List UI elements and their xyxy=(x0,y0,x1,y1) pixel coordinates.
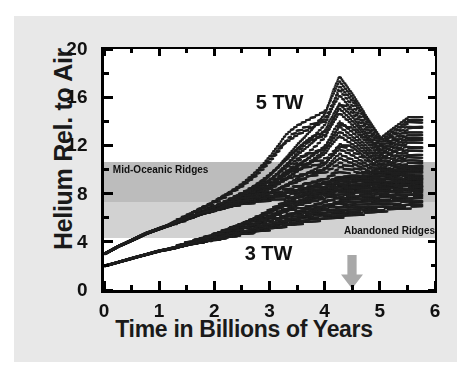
y-tick-minor xyxy=(102,216,109,219)
x-tick-minor xyxy=(240,285,243,292)
x-tick-label: 6 xyxy=(418,300,452,322)
y-tick-major-right xyxy=(428,192,437,195)
x-tick-label: 1 xyxy=(142,300,176,322)
y-tick-minor xyxy=(102,72,109,75)
y-tick-major xyxy=(102,96,113,99)
x-tick-major xyxy=(378,281,381,292)
y-tick-major-right xyxy=(428,144,437,147)
x-tick-minor-top xyxy=(406,47,409,53)
x-tick-major-top xyxy=(268,47,271,56)
series-label-5tw: 5 TW xyxy=(256,91,304,114)
x-tick-label: 3 xyxy=(253,300,287,322)
x-tick-major-top xyxy=(434,47,437,56)
y-tick-label: 0 xyxy=(53,279,87,301)
y-tick-minor xyxy=(102,168,109,171)
x-tick-label: 5 xyxy=(363,300,397,322)
x-tick-major xyxy=(323,281,326,292)
y-tick-minor-right xyxy=(431,72,437,75)
x-tick-major-top xyxy=(213,47,216,56)
x-tick-label: 0 xyxy=(87,300,121,322)
y-tick-label: 20 xyxy=(53,38,87,60)
y-tick-major-right xyxy=(428,96,437,99)
y-tick-minor xyxy=(102,120,109,123)
y-tick-minor xyxy=(102,264,109,267)
x-tick-minor-top xyxy=(351,47,354,53)
y-tick-label: 4 xyxy=(53,231,87,253)
x-tick-minor xyxy=(406,285,409,292)
y-tick-major-right xyxy=(428,240,437,243)
x-tick-major xyxy=(268,281,271,292)
x-tick-major xyxy=(434,281,437,292)
x-tick-minor xyxy=(296,285,299,292)
band-label-abandoned-ridges: Abandoned Ridges xyxy=(344,225,435,236)
y-tick-minor-right xyxy=(431,168,437,171)
x-tick-major-top xyxy=(103,47,106,56)
series-label-3tw: 3 TW xyxy=(245,242,293,265)
x-tick-major-top xyxy=(323,47,326,56)
x-tick-minor-top xyxy=(296,47,299,53)
figure-panel: Helium Rel. to Air Time in Billions of Y… xyxy=(14,16,457,362)
y-tick-label: 16 xyxy=(53,86,87,108)
x-tick-minor xyxy=(130,285,133,292)
y-tick-label: 12 xyxy=(53,134,87,156)
y-tick-minor-right xyxy=(431,264,437,267)
x-tick-major-top xyxy=(378,47,381,56)
y-tick-major xyxy=(102,144,113,147)
y-tick-minor-right xyxy=(431,216,437,219)
y-tick-minor-right xyxy=(431,120,437,123)
x-tick-label: 4 xyxy=(308,300,342,322)
band-label-mid-oceanic-ridges: Mid-Oceanic Ridges xyxy=(113,164,209,175)
y-tick-label: 8 xyxy=(53,183,87,205)
x-tick-minor xyxy=(185,285,188,292)
plot-area: Abandoned RidgesMid-Oceanic Ridges5 TW3 … xyxy=(101,47,437,293)
x-tick-minor xyxy=(351,285,354,292)
x-tick-minor-top xyxy=(130,47,133,53)
x-tick-major xyxy=(213,281,216,292)
x-tick-major-top xyxy=(158,47,161,56)
y-tick-major xyxy=(102,192,113,195)
x-tick-major xyxy=(158,281,161,292)
present-day-arrow-icon xyxy=(341,255,363,289)
x-tick-major xyxy=(103,281,106,292)
x-tick-minor-top xyxy=(240,47,243,53)
x-tick-label: 2 xyxy=(197,300,231,322)
x-tick-minor-top xyxy=(185,47,188,53)
y-tick-major xyxy=(102,240,113,243)
